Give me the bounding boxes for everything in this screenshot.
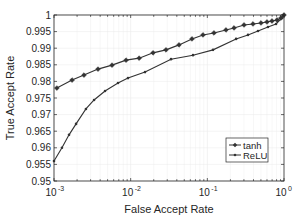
- diamond-marker: [124, 58, 129, 63]
- point-marker: [68, 134, 71, 137]
- y-tick-label: 1: [45, 10, 51, 21]
- x-tick-labels: 10-310-210-1100: [45, 185, 292, 198]
- point-marker: [275, 23, 278, 26]
- point-marker: [61, 147, 64, 150]
- y-tick-label: 0.955: [26, 159, 51, 170]
- y-axis-label: True Accept Rate: [4, 56, 16, 141]
- point-marker: [93, 99, 96, 102]
- diamond-marker: [151, 50, 156, 55]
- diamond-marker: [232, 26, 237, 31]
- point-marker: [281, 17, 284, 20]
- point-marker: [212, 49, 215, 52]
- x-tick-label-exponent: 0: [288, 185, 292, 192]
- series-line: [57, 15, 284, 88]
- point-marker: [127, 77, 130, 80]
- x-tick-label: 10-3: [45, 185, 64, 198]
- point-marker: [247, 34, 250, 37]
- x-tick-label: 100: [275, 185, 292, 198]
- x-tick-label-base: 10: [199, 187, 211, 198]
- chart: 0.950.9550.960.9650.970.9750.980.9850.99…: [0, 0, 304, 224]
- diamond-marker: [54, 86, 59, 91]
- point-marker: [85, 108, 88, 111]
- point-marker-icon: [234, 154, 237, 157]
- point-marker: [104, 90, 107, 93]
- y-tick-label: 0.995: [26, 26, 51, 37]
- diamond-marker: [270, 19, 275, 24]
- y-tick-label: 0.96: [32, 142, 52, 153]
- diamond-marker: [265, 20, 270, 25]
- legend-label: ReLU: [243, 150, 267, 161]
- series-tanh: [54, 13, 286, 91]
- x-tick-label-base: 10: [275, 187, 287, 198]
- point-marker: [257, 30, 260, 33]
- line-chart: 0.950.9550.960.9650.970.9750.980.9850.99…: [0, 0, 304, 224]
- y-tick-label: 0.99: [32, 43, 52, 54]
- legend: tanhReLU: [226, 138, 268, 162]
- point-marker: [170, 58, 173, 61]
- diamond-marker: [259, 21, 264, 26]
- y-tick-label: 0.965: [26, 126, 51, 137]
- x-axis-label: False Accept Rate: [124, 203, 213, 215]
- diamond-marker: [251, 22, 256, 27]
- diamond-marker: [82, 73, 87, 78]
- point-marker: [75, 123, 78, 126]
- point-marker: [117, 82, 120, 85]
- y-tick-label: 0.95: [32, 176, 52, 187]
- x-tick-label: 10-2: [122, 185, 141, 198]
- x-tick-label-base: 10: [122, 187, 134, 198]
- diamond-marker: [177, 42, 182, 47]
- y-tick-label: 0.97: [32, 109, 52, 120]
- point-marker: [192, 54, 195, 57]
- y-tick-labels: 0.950.9550.960.9650.970.9750.980.9850.99…: [26, 10, 51, 187]
- diamond-marker: [96, 67, 101, 72]
- diamond-marker: [242, 23, 247, 28]
- diamond-marker: [212, 31, 217, 36]
- y-tick-label: 0.975: [26, 93, 51, 104]
- point-marker: [267, 26, 270, 29]
- x-tick-label: 10-1: [199, 185, 218, 198]
- diamond-marker: [70, 78, 75, 83]
- x-tick-label-base: 10: [45, 187, 57, 198]
- diamond-marker: [201, 33, 206, 38]
- y-tick-label: 0.98: [32, 76, 52, 87]
- y-tick-label: 0.985: [26, 59, 51, 70]
- point-marker: [144, 71, 147, 74]
- diamond-marker: [137, 56, 142, 61]
- x-tick-label-exponent: -2: [135, 185, 141, 192]
- x-tick-label-exponent: -1: [211, 185, 217, 192]
- point-marker: [235, 38, 238, 41]
- x-tick-label-exponent: -3: [58, 185, 64, 192]
